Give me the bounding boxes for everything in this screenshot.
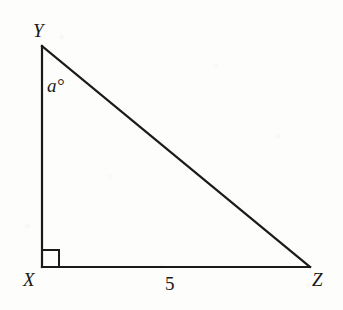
vertex-label-y: Y — [33, 21, 44, 40]
right-angle-icon — [42, 250, 59, 267]
triangle-drawing — [0, 0, 343, 310]
vertex-label-x: X — [23, 270, 35, 289]
angle-label-a: a° — [47, 76, 64, 95]
geometry-figure: Y X Z a° 5 — [0, 0, 343, 310]
triangle-side-yz — [42, 46, 310, 267]
side-length-label-xz: 5 — [165, 274, 175, 293]
vertex-label-z: Z — [312, 270, 323, 289]
